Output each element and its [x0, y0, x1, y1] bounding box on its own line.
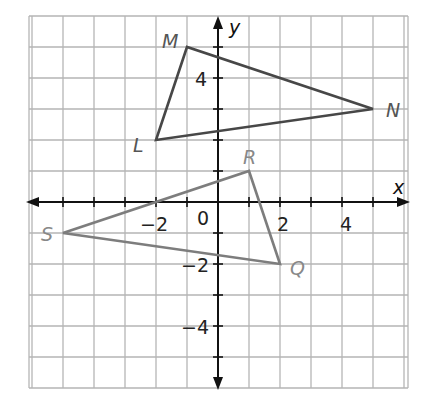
y-tick-label-neg2: −2 — [181, 254, 209, 276]
x-tick-label-neg2: −2 — [140, 213, 168, 235]
y-tick-label-4: 4 — [195, 68, 207, 90]
vertex-label-l: L — [133, 134, 144, 156]
y-tick-label-neg4: −4 — [181, 316, 209, 338]
coordinate-plane: −2 0 2 4 4 −2 −4 y x M L N R S Q — [0, 0, 434, 410]
vertex-label-q: Q — [290, 257, 305, 279]
vertex-label-r: R — [243, 146, 256, 168]
vertex-label-s: S — [41, 223, 53, 245]
x-axis-label: x — [392, 176, 405, 198]
vertex-label-n: N — [386, 99, 400, 121]
x-tick-label-4: 4 — [340, 213, 352, 235]
vertex-label-m: M — [162, 30, 178, 52]
y-axis-up-arrow-icon — [213, 16, 223, 29]
x-tick-label-2: 2 — [277, 213, 289, 235]
triangle-lmn — [156, 47, 373, 140]
origin-label: 0 — [197, 207, 209, 229]
y-axis-label: y — [228, 16, 241, 38]
triangle-qrs — [63, 171, 280, 264]
